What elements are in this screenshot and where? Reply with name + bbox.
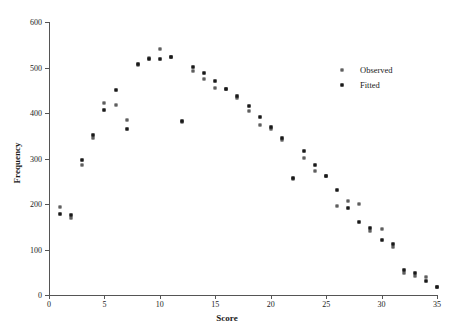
data-point-fitted <box>258 115 261 118</box>
data-point-fitted <box>181 120 184 123</box>
x-tick-mark <box>160 295 161 299</box>
data-point-fitted <box>391 243 394 246</box>
x-tick-mark <box>49 295 50 299</box>
data-point-fitted <box>114 89 117 92</box>
data-point-fitted <box>302 150 305 153</box>
data-point-fitted <box>336 189 339 192</box>
data-point-fitted <box>203 71 206 74</box>
legend-item: Observed <box>336 62 393 77</box>
data-point-fitted <box>402 268 405 271</box>
data-point-fitted <box>103 108 106 111</box>
data-point-observed <box>402 272 405 275</box>
data-point-observed <box>302 156 305 159</box>
data-point-observed <box>70 216 73 219</box>
data-point-observed <box>380 228 383 231</box>
data-point-fitted <box>92 133 95 136</box>
data-point-fitted <box>269 125 272 128</box>
x-axis-line <box>49 295 437 296</box>
data-point-observed <box>314 170 317 173</box>
scatter-chart: 05101520253035 0100200300400500600 Score… <box>0 0 454 334</box>
data-point-observed <box>413 274 416 277</box>
data-point-fitted <box>147 57 150 60</box>
x-tick-mark <box>326 295 327 299</box>
y-tick-mark <box>45 159 49 160</box>
data-point-fitted <box>136 63 139 66</box>
x-tick-label: 30 <box>378 300 386 309</box>
data-point-fitted <box>236 95 239 98</box>
x-tick-label: 5 <box>102 300 106 309</box>
legend-label: Fitted <box>348 80 380 90</box>
x-axis-title: Score <box>0 313 454 323</box>
y-axis-title: Frequency <box>12 118 22 208</box>
data-point-observed <box>92 137 95 140</box>
x-tick-mark <box>215 295 216 299</box>
data-point-observed <box>247 109 250 112</box>
data-point-observed <box>125 119 128 122</box>
data-point-fitted <box>125 127 128 130</box>
x-tick-mark <box>271 295 272 299</box>
y-tick-label: 100 <box>18 245 42 254</box>
data-point-fitted <box>358 221 361 224</box>
data-point-fitted <box>158 57 161 60</box>
y-tick-mark <box>45 204 49 205</box>
data-point-observed <box>81 164 84 167</box>
x-tick-mark <box>104 295 105 299</box>
data-point-fitted <box>347 206 350 209</box>
y-tick-label: 400 <box>18 109 42 118</box>
data-point-observed <box>369 230 372 233</box>
data-point-fitted <box>81 159 84 162</box>
data-point-fitted <box>291 176 294 179</box>
data-point-fitted <box>70 213 73 216</box>
data-point-observed <box>358 203 361 206</box>
x-tick-label: 10 <box>156 300 164 309</box>
data-point-observed <box>391 246 394 249</box>
data-point-fitted <box>247 105 250 108</box>
data-point-observed <box>214 86 217 89</box>
data-point-fitted <box>59 213 62 216</box>
legend-label: Observed <box>348 65 393 75</box>
y-tick-mark <box>45 68 49 69</box>
y-tick-mark <box>45 22 49 23</box>
chart-legend: ObservedFitted <box>336 62 393 92</box>
data-point-fitted <box>436 285 439 288</box>
data-point-fitted <box>192 65 195 68</box>
y-tick-label: 500 <box>18 63 42 72</box>
data-point-fitted <box>214 79 217 82</box>
data-point-observed <box>258 123 261 126</box>
y-tick-label: 600 <box>18 18 42 27</box>
y-tick-mark <box>45 295 49 296</box>
data-point-fitted <box>369 226 372 229</box>
data-point-observed <box>336 205 339 208</box>
data-point-observed <box>424 275 427 278</box>
data-point-fitted <box>314 164 317 167</box>
y-tick-mark <box>45 250 49 251</box>
open-square-icon <box>336 65 348 75</box>
x-tick-label: 20 <box>267 300 275 309</box>
y-tick-mark <box>45 113 49 114</box>
filled-square-icon <box>336 80 348 90</box>
data-point-fitted <box>325 174 328 177</box>
data-point-observed <box>203 77 206 80</box>
x-tick-label: 0 <box>47 300 51 309</box>
x-tick-label: 15 <box>211 300 219 309</box>
data-point-observed <box>192 69 195 72</box>
y-tick-label: 0 <box>18 291 42 300</box>
x-tick-mark <box>437 295 438 299</box>
data-point-fitted <box>225 88 228 91</box>
data-point-fitted <box>413 272 416 275</box>
legend-item: Fitted <box>336 77 393 92</box>
x-tick-mark <box>382 295 383 299</box>
x-tick-label: 25 <box>322 300 330 309</box>
data-point-fitted <box>169 56 172 59</box>
data-point-fitted <box>424 280 427 283</box>
data-point-observed <box>347 199 350 202</box>
data-point-observed <box>158 48 161 51</box>
x-tick-label: 35 <box>433 300 441 309</box>
data-point-observed <box>114 104 117 107</box>
data-point-fitted <box>380 239 383 242</box>
data-point-fitted <box>280 137 283 140</box>
data-point-observed <box>59 206 62 209</box>
data-point-observed <box>103 101 106 104</box>
y-axis-line <box>49 22 50 295</box>
